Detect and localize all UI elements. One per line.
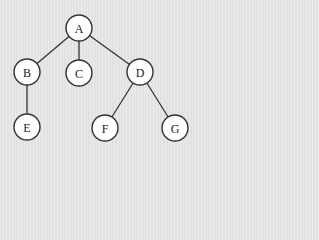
node-b: B [14,59,40,85]
node-label: F [102,122,109,136]
node-label: B [23,66,31,80]
tree-diagram: A B C D E F G [0,0,202,148]
node-e: E [14,114,40,140]
node-g: G [162,115,188,141]
node-label: A [75,22,84,36]
node-d: D [127,59,153,85]
node-c: C [66,60,92,86]
node-f: F [92,115,118,141]
node-label: C [75,67,83,81]
edges [27,28,175,128]
node-label: G [171,122,180,136]
node-label: D [136,66,145,80]
node-a: A [66,15,92,41]
node-label: E [23,121,30,135]
